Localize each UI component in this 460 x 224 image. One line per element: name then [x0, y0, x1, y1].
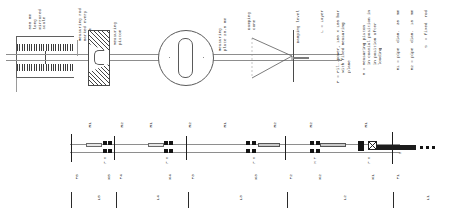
lower-assembly: R1 R2 R1 R2 R1 R2 R2 R1 P M P M P M M P …: [0, 112, 460, 224]
station-label-F2: F2: [288, 174, 293, 179]
piston-block-3a: [246, 141, 250, 145]
small-mark-m2: P M: [165, 157, 169, 164]
legend-entry-S: S = fixed rod: [424, 10, 429, 48]
drawing-sheet: 500 mm long mirrored scale Measuring rod…: [0, 0, 460, 224]
fixed-rod-square-marker: [368, 141, 377, 150]
span-label-L5: L5: [96, 195, 101, 200]
lower-rod-top-line: [70, 144, 400, 145]
piston-block-3b: [252, 141, 256, 145]
rod-end-dot-1: [420, 146, 423, 149]
pipe-label-p7: R2: [308, 122, 313, 127]
small-mark-m3: P M: [252, 157, 256, 164]
piston-block-1b: [108, 141, 112, 145]
span-divider-1: [71, 192, 72, 208]
measuring-plate-slot-neck: [181, 49, 190, 67]
piston-block-1d: [108, 149, 112, 153]
rod-end-dot-3: [432, 146, 435, 149]
piston-block-5: [358, 141, 364, 151]
measuring-piston-callout: Measuring piston: [113, 22, 123, 45]
piston-block-4d: [316, 149, 320, 153]
station-label-K5: K5: [106, 174, 111, 179]
span-divider-4: [287, 192, 288, 208]
measuring-piston-bore: [94, 50, 104, 65]
piston-block-1c: [103, 149, 107, 153]
lower-rod-bottom-line: [70, 152, 400, 153]
station-label-K2: K2: [317, 174, 322, 179]
span-label-L1: L1: [425, 195, 430, 200]
scale-centre-stem: [45, 51, 46, 64]
station-label-F3: F3: [190, 174, 195, 179]
pipe-label-p8: R1: [363, 122, 368, 127]
legend-entry-M: M = Measuring piston in coaxial position…: [362, 10, 383, 75]
legend-entry-R1: R1 = pipe diam. 35 mm: [396, 10, 401, 70]
small-mark-m5: P M: [367, 157, 371, 164]
scale-graduations-upper: [17, 44, 73, 51]
scale-left-extension: [16, 78, 17, 92]
span-divider-5: [393, 192, 394, 208]
span-label-L3: L3: [238, 195, 243, 200]
rod-station-tick-F5: [71, 134, 72, 162]
sleeve-pack-4: [320, 143, 346, 147]
span-label-L4: L4: [155, 195, 160, 200]
piston-block-1a: [103, 141, 107, 145]
small-mark-m4: M P: [313, 157, 317, 164]
piston-block-3d: [252, 149, 256, 153]
piston-block-2a: [164, 141, 168, 145]
small-mark-m6: S: [398, 152, 402, 154]
piston-block-4b: [316, 141, 320, 145]
scale-graduations-lower: [17, 64, 73, 71]
pipe-label-p1: R1: [87, 122, 92, 127]
legend-entry-P: P = Pil.-power, 150 x 150 bar with fixed…: [336, 10, 352, 83]
pipe-label-p5: R1: [222, 122, 227, 127]
damping-cone: [252, 34, 292, 82]
piston-block-2d: [169, 149, 173, 153]
scale-block-label: 500 mm long mirrored scale: [28, 9, 47, 29]
pipe-label-p6: R2: [272, 122, 277, 127]
rod-station-tick-F3: [186, 136, 187, 160]
damping-level-line: [293, 30, 294, 82]
station-label-F1: F1: [395, 174, 400, 179]
piston-block-2b: [169, 141, 173, 145]
station-label-K3: K3: [253, 174, 258, 179]
measuring-rod-leader: [77, 40, 78, 56]
damping-cone-callout: Damping cone: [247, 12, 257, 30]
pipe-label-p2: R2: [119, 122, 124, 127]
piston-block-4c: [310, 149, 314, 153]
rod-station-tick-F4: [114, 136, 115, 160]
pipe-label-p3: R1: [148, 122, 153, 127]
legend-entry-R2: R2 = pipe diam. 18 mm: [410, 10, 415, 70]
piston-block-3c: [246, 149, 250, 153]
small-mark-m1: P M: [103, 157, 107, 164]
legend-block: L = Layer P = Pil.-power, 150 x 150 bar …: [300, 8, 460, 112]
piston-block-4a: [310, 141, 314, 145]
rod-end-dot-2: [426, 146, 429, 149]
station-label-K1: K1: [370, 174, 375, 179]
rod-station-tick-F1: [392, 132, 393, 164]
measuring-plate-callout: Measuring plate 20.5 mm: [218, 18, 228, 51]
pipe-label-p4: R2: [187, 122, 192, 127]
piston-block-2c: [164, 149, 168, 153]
station-label-F4: F4: [118, 174, 123, 179]
span-divider-2: [116, 192, 117, 208]
sleeve-pack-1: [86, 143, 102, 147]
sleeve-pack-3: [258, 143, 280, 147]
legend-entry-L: L = Layer: [320, 10, 325, 33]
rod-station-tick-F2: [285, 136, 286, 160]
sleeve-pack-2: [148, 143, 164, 147]
station-label-K4: K4: [167, 174, 172, 179]
span-divider-3: [188, 192, 189, 208]
span-label-L2: L2: [342, 195, 347, 200]
station-label-F5: F5: [74, 174, 79, 179]
